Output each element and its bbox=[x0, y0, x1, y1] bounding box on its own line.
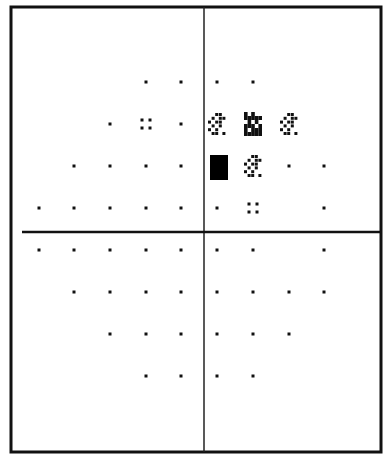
outer-frame bbox=[11, 7, 381, 452]
test-points bbox=[38, 81, 326, 378]
symbol-dot bbox=[145, 291, 148, 294]
symbol-dot bbox=[180, 333, 183, 336]
symbol-dot bbox=[180, 291, 183, 294]
symbol-dot bbox=[73, 249, 76, 252]
symbol-dot bbox=[252, 291, 255, 294]
symbol-dot bbox=[216, 81, 219, 84]
symbol-dot bbox=[180, 123, 183, 126]
visual-field-plot bbox=[0, 0, 386, 461]
symbol-dot bbox=[145, 207, 148, 210]
symbol-dot bbox=[216, 333, 219, 336]
symbol-dot bbox=[38, 249, 41, 252]
symbol-dot bbox=[252, 333, 255, 336]
symbol-dot bbox=[145, 249, 148, 252]
symbol-dot bbox=[109, 249, 112, 252]
symbol-dense-checker bbox=[244, 112, 262, 136]
symbol-dot bbox=[145, 375, 148, 378]
symbol-dot bbox=[38, 207, 41, 210]
symbol-dot bbox=[323, 291, 326, 294]
symbol-dot bbox=[216, 291, 219, 294]
symbol-dot bbox=[109, 165, 112, 168]
symbol-dot bbox=[252, 81, 255, 84]
symbol-dot bbox=[180, 207, 183, 210]
symbol-dot bbox=[145, 165, 148, 168]
symbol-dot bbox=[180, 81, 183, 84]
symbol-dot bbox=[180, 375, 183, 378]
symbol-dot bbox=[109, 333, 112, 336]
symbol-dot bbox=[216, 375, 219, 378]
symbol-dot bbox=[145, 333, 148, 336]
symbol-dot bbox=[323, 165, 326, 168]
symbol-four-dots bbox=[248, 203, 259, 214]
symbol-dot bbox=[216, 249, 219, 252]
symbol-dot bbox=[109, 123, 112, 126]
symbol-dot bbox=[323, 207, 326, 210]
symbol-dot bbox=[109, 207, 112, 210]
symbol-solid bbox=[210, 155, 228, 180]
symbol-dot bbox=[288, 165, 291, 168]
symbol-dot bbox=[73, 207, 76, 210]
symbol-dot bbox=[73, 165, 76, 168]
symbol-dot bbox=[252, 249, 255, 252]
symbol-dot bbox=[109, 291, 112, 294]
symbol-checker bbox=[244, 155, 261, 177]
symbol-four-dots bbox=[141, 119, 152, 130]
symbol-dot bbox=[216, 207, 219, 210]
symbol-dot bbox=[288, 291, 291, 294]
symbol-dot bbox=[145, 81, 148, 84]
symbol-checker bbox=[280, 113, 297, 135]
symbol-dot bbox=[288, 333, 291, 336]
symbol-checker bbox=[208, 113, 225, 135]
symbol-dot bbox=[323, 249, 326, 252]
symbol-dot bbox=[180, 249, 183, 252]
symbol-dot bbox=[73, 291, 76, 294]
symbol-dot bbox=[252, 375, 255, 378]
symbol-dot bbox=[180, 165, 183, 168]
